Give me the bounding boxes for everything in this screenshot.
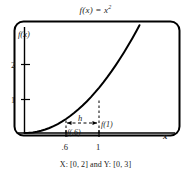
f-of-point-six-label: f(.6) xyxy=(67,128,81,137)
y-tick-label-1: 1 xyxy=(11,95,15,105)
x-tick-label-1: 1 xyxy=(96,142,100,152)
x-tick-label-point6: .6 xyxy=(62,142,68,152)
screen-frame xyxy=(15,22,180,136)
y-axis-label: f(x) xyxy=(18,29,30,39)
y-tick-label-2: 2 xyxy=(11,60,15,70)
h-label: h xyxy=(78,113,82,123)
figure-graph-of-x-squared: f(x) = x2 f(x) x 2 1 .6 1 h xyxy=(0,0,191,177)
x-axis-label: x xyxy=(162,131,168,141)
figure-caption: X: [0, 2] and Y: [0, 3] xyxy=(0,160,191,169)
f-of-one-label: f(1) xyxy=(101,120,113,129)
plot-svg: f(x) x 2 1 .6 1 h f(.6) f(1) xyxy=(0,0,191,177)
